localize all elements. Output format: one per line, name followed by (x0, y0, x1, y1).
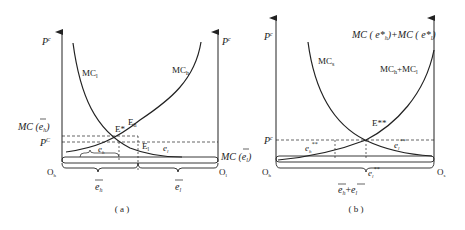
origin-oh-b: Oh (262, 167, 272, 178)
top-right-mc-label: MC ( e*h)+MC ( e*l) (351, 29, 436, 41)
mc-s-label: MCs (318, 56, 335, 67)
mc-l-curve (73, 43, 182, 157)
mc-h-label: MCh (172, 65, 189, 76)
e-h-label: Eh (128, 117, 137, 128)
e-star2-label: E** (372, 118, 387, 128)
diagram-canvas: Pc Pc MCl MCh MC (eh) PC E* Eh El eh el … (0, 0, 465, 230)
axis-label-pc-b: Pc (263, 31, 273, 42)
el-star2-label: el** (394, 138, 405, 151)
brace-eh-bar (62, 163, 138, 172)
caption-b: ( b ) (349, 204, 364, 214)
origin-oh-a: Oh (47, 167, 57, 178)
panel-a: Pc Pc MCl MCh MC (eh) PC E* Eh El eh el … (17, 32, 252, 214)
axis-label-pc-right: Pc (221, 36, 231, 47)
mc-eh-label: MC (eh) (17, 121, 50, 133)
eh-star2-label: eh** (305, 141, 318, 154)
caption-a: ( a ) (115, 204, 130, 214)
axis-label-pc-left: Pc (41, 36, 51, 47)
el-star-label: el (163, 143, 169, 154)
eh-star-label: eh (98, 144, 105, 155)
baseline-bar-a (62, 157, 218, 163)
pc-label-a: PC (39, 137, 51, 148)
origin-os-b: Os (437, 167, 446, 178)
e-star-label: E* (115, 124, 125, 134)
brace-sum (276, 162, 434, 172)
mc-el-label: MC (el) (220, 151, 252, 163)
brace-eh-label: eh (95, 181, 102, 193)
brace-el-bar (138, 163, 218, 172)
mc-sum-label: MCh+MCl (380, 64, 418, 75)
panel-b: Pc MCs MCh+MCl MC ( e*h)+MC ( e*l) Pc E*… (262, 18, 446, 214)
brace-el-label: el (175, 181, 181, 193)
pc-label-b: Pc (263, 135, 273, 146)
mc-l-label: MCl (82, 68, 98, 79)
brace-sum-label: eh+el (338, 184, 358, 196)
origin-ol-a: Ol (219, 167, 228, 178)
e-l-label: El (142, 141, 150, 152)
el-bottom-label: el** (368, 166, 379, 179)
